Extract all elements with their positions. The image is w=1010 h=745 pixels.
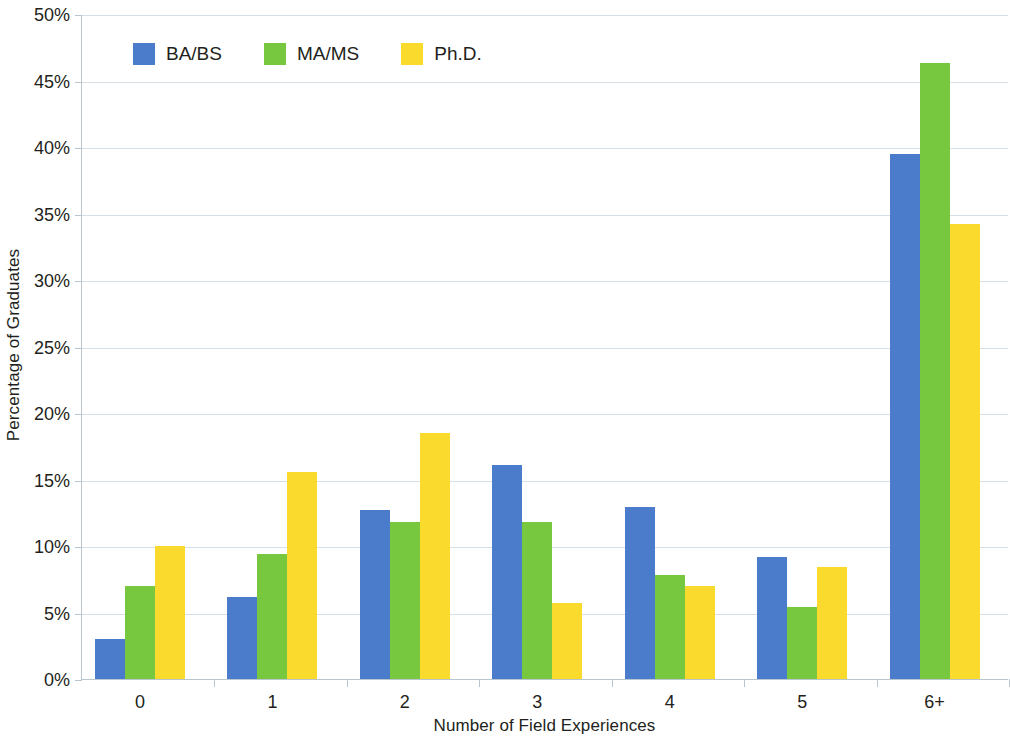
bar [817, 567, 847, 679]
y-axis-tick-mark [75, 281, 82, 282]
bar-group: 0 [82, 15, 214, 679]
y-axis-title: Percentage of Graduates [1, 13, 27, 678]
x-axis-tick-label: 0 [135, 692, 145, 713]
y-axis-tick-mark [75, 614, 82, 615]
legend-item: BA/BS [133, 43, 222, 65]
y-axis-tick-mark [75, 414, 82, 415]
y-axis-tick-label: 0% [44, 670, 70, 691]
y-axis-tick-label: 45% [34, 71, 70, 92]
x-axis-tick-mark [877, 679, 878, 687]
bar [390, 522, 420, 679]
x-axis-tick-label: 3 [532, 692, 542, 713]
y-axis-tick-mark [75, 148, 82, 149]
bar [757, 557, 787, 679]
legend-swatch-icon [264, 43, 286, 65]
y-axis-tick-label: 50% [34, 5, 70, 26]
plot-area: 0%5%10%15%20%25%30%35%40%45%50%0123456+ [81, 15, 1008, 680]
y-axis-tick-mark [75, 481, 82, 482]
legend: BA/BSMA/MSPh.D. [133, 43, 482, 65]
y-axis-tick-label: 30% [34, 271, 70, 292]
legend-item: Ph.D. [401, 43, 482, 65]
bar [890, 154, 920, 679]
x-axis-tick-mark [347, 679, 348, 687]
bar [155, 546, 185, 679]
x-axis-tick-mark [479, 679, 480, 687]
bar [287, 472, 317, 679]
bar [655, 575, 685, 679]
x-axis-tick-label: 4 [665, 692, 675, 713]
y-axis-tick-mark [75, 215, 82, 216]
legend-label: BA/BS [166, 43, 222, 65]
y-axis-tick-label: 40% [34, 138, 70, 159]
x-axis-tick-mark [612, 679, 613, 687]
bar-chart: Percentage of Graduates 0%5%10%15%20%25%… [0, 0, 1010, 745]
bar-group: 2 [347, 15, 479, 679]
bar [257, 554, 287, 679]
y-axis-tick-label: 5% [44, 603, 70, 624]
bar-group: 5 [744, 15, 876, 679]
y-axis-tick-mark [75, 82, 82, 83]
x-axis-tick-label: 6+ [924, 692, 945, 713]
y-axis-tick-label: 10% [34, 537, 70, 558]
x-axis-tick-mark [744, 679, 745, 687]
bar-group: 1 [214, 15, 346, 679]
legend-item: MA/MS [264, 43, 359, 65]
y-axis-tick-mark [75, 15, 82, 16]
bar [950, 224, 980, 679]
y-axis-tick-mark [75, 348, 82, 349]
bar [492, 465, 522, 679]
y-axis-tick-label: 15% [34, 470, 70, 491]
bar-group: 3 [479, 15, 611, 679]
bar [360, 510, 390, 679]
x-axis-title: Number of Field Experiences [81, 716, 1008, 736]
x-axis-tick-label: 1 [267, 692, 277, 713]
x-axis-tick-label: 5 [797, 692, 807, 713]
bar [227, 597, 257, 679]
y-axis-tick-label: 20% [34, 404, 70, 425]
bar [95, 639, 125, 679]
bar [522, 522, 552, 679]
y-axis-tick-label: 35% [34, 204, 70, 225]
bar-group: 6+ [877, 15, 1009, 679]
y-axis-tick-label: 25% [34, 337, 70, 358]
bar [552, 603, 582, 679]
legend-label: MA/MS [297, 43, 359, 65]
legend-label: Ph.D. [434, 43, 482, 65]
x-axis-tick-mark [214, 679, 215, 687]
bar [920, 63, 950, 679]
bar-group: 4 [612, 15, 744, 679]
y-axis-tick-mark [75, 680, 82, 681]
y-axis-tick-mark [75, 547, 82, 548]
bar [420, 433, 450, 679]
bar [685, 586, 715, 679]
bar [787, 607, 817, 679]
legend-swatch-icon [133, 43, 155, 65]
x-axis-tick-label: 2 [400, 692, 410, 713]
bar [125, 586, 155, 679]
bar [625, 507, 655, 679]
legend-swatch-icon [401, 43, 423, 65]
